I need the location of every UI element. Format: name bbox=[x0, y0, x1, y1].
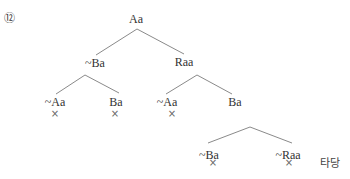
edge-right-left bbox=[166, 75, 197, 94]
node-l2-right-a: ~Aa bbox=[157, 96, 177, 108]
closed-mark: × bbox=[209, 158, 217, 168]
edge-right-right bbox=[197, 75, 232, 94]
closed-mark: × bbox=[111, 109, 119, 119]
edge-root-left bbox=[96, 29, 137, 55]
node-l2-right-b: Ba bbox=[228, 96, 241, 108]
closed-mark: × bbox=[285, 158, 293, 168]
node-l1-right: Raa bbox=[175, 56, 194, 68]
node-root: Aa bbox=[129, 13, 143, 25]
closed-mark: × bbox=[51, 109, 59, 119]
node-l2-left-a: ~Aa bbox=[45, 96, 65, 108]
edge-bottom-right bbox=[250, 127, 292, 143]
edge-root-right bbox=[137, 29, 184, 54]
edge-left-left bbox=[56, 75, 85, 94]
edge-left-right bbox=[85, 75, 119, 93]
node-l1-left: ~Ba bbox=[85, 57, 105, 69]
edge-bottom-left bbox=[208, 127, 250, 143]
problem-number: ⑫ bbox=[4, 13, 15, 24]
node-l2-left-b: Ba bbox=[109, 96, 122, 108]
truth-tree-diagram: ⑫ Aa ~Ba Raa ~Aa × Ba × ~Aa × Ba ~Ba × ~… bbox=[0, 0, 350, 179]
verdict-label: 타당 bbox=[320, 158, 340, 169]
closed-mark: × bbox=[168, 109, 176, 119]
